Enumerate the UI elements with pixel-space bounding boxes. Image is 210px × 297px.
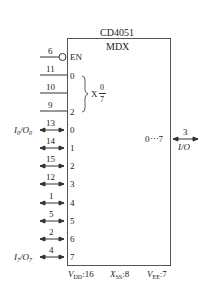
channel-6-pin: 2 — [49, 228, 54, 237]
channel-7-pin: 4 — [49, 246, 54, 255]
vee-label: VEE:7 — [147, 270, 167, 282]
channel-4-pin: 1 — [49, 192, 54, 201]
address-pin-0-label: 0 — [70, 72, 75, 81]
channel-0-name: I0/O0 — [14, 126, 32, 138]
enable-label: EN — [70, 53, 82, 62]
channel-6-label: 6 — [70, 235, 75, 244]
channel-3-label: 3 — [70, 180, 75, 189]
address-pin-2-number: 9 — [48, 101, 53, 110]
vdd-label: VDD:16 — [68, 270, 94, 282]
channel-4-label: 4 — [70, 199, 75, 208]
channel-7-name: I7/O7 — [14, 253, 32, 265]
fraction-bar — [99, 93, 106, 94]
channel-3-pin: 12 — [46, 173, 55, 182]
address-frac-bottom: 7 — [100, 95, 104, 104]
enable-pin-number: 6 — [48, 47, 53, 56]
channel-2-label: 2 — [70, 162, 75, 171]
address-pin-0-number: 11 — [46, 65, 55, 74]
channel-1-pin: 14 — [46, 137, 55, 146]
channel-2-pin: 15 — [46, 155, 55, 164]
channel-0-label: 0 — [70, 126, 75, 135]
vss-label: XSS:8 — [110, 270, 129, 282]
common-range-label: 0⋯7 — [145, 135, 163, 144]
channel-7-label: 7 — [70, 253, 75, 262]
channel-1-label: 1 — [70, 144, 75, 153]
address-frac-top: 0 — [100, 83, 104, 92]
address-group-label: X — [91, 90, 98, 99]
common-pin-number: 3 — [183, 128, 188, 137]
channel-0-pin: 13 — [46, 119, 55, 128]
channel-5-pin: 5 — [49, 210, 54, 219]
address-pin-2-label: 2 — [70, 108, 75, 117]
address-pin-1-number: 10 — [46, 83, 55, 92]
channel-5-label: 5 — [70, 217, 75, 226]
common-io-label: I/O — [178, 143, 190, 152]
